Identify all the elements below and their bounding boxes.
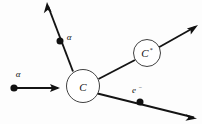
excited-nucleus-superscript-label: * — [150, 47, 153, 53]
excited-nucleus-label: C — [141, 47, 149, 59]
track-electron — [98, 94, 195, 118]
track-group — [14, 6, 195, 118]
incoming-alpha-dot — [10, 84, 17, 91]
arrowhead-group — [43, 2, 198, 121]
label-group: C C * α α e − — [16, 32, 153, 95]
emitted-electron-label: e — [132, 85, 136, 95]
emitted-electron-dot — [137, 99, 144, 106]
arrow-electron-icon — [185, 114, 197, 121]
outgoing-alpha-dot — [57, 38, 64, 45]
outgoing-alpha-label: α — [67, 32, 72, 42]
track-excited-recoil — [159, 27, 196, 48]
particle-interaction-diagram: C C * α α e − — [0, 0, 202, 124]
emitted-electron-superscript-label: − — [138, 84, 142, 90]
track-to-excited-nucleus — [99, 60, 136, 79]
diagram-canvas: C C * α α e − — [0, 0, 202, 124]
incoming-alpha-label: α — [16, 69, 21, 79]
central-nucleus-label: C — [79, 81, 87, 93]
